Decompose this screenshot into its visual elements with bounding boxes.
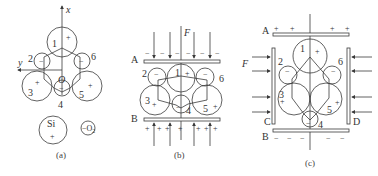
- svg-text:−: −: [340, 134, 345, 143]
- caption-a: (a): [56, 150, 66, 160]
- svg-text:−: −: [145, 49, 150, 58]
- atom-1-sign: +: [185, 69, 190, 78]
- atom-4-label: 4: [318, 119, 323, 130]
- atom-1-sign: +: [66, 33, 71, 42]
- atom-3-label: 3: [28, 87, 33, 98]
- plate-b-label: B: [262, 131, 269, 142]
- panel-a: x y O 1 + 2 − 3 + 4 − 5 + 6 − Si + −O2 (…: [17, 4, 102, 160]
- atom-2-label: 2: [142, 68, 147, 79]
- atom-6-sign: −: [331, 67, 336, 76]
- atom-4-sign: −: [176, 103, 181, 112]
- plate-b: [144, 118, 220, 121]
- plate-b-label: B: [131, 113, 138, 124]
- svg-text:−: −: [160, 49, 165, 58]
- plate-c-label: C: [264, 116, 271, 127]
- atom-3-sign: +: [280, 97, 285, 106]
- atom-3-sign: +: [35, 78, 40, 87]
- plate-a-label: A: [262, 25, 270, 36]
- svg-text:+: +: [290, 24, 295, 33]
- svg-text:+: +: [330, 24, 335, 33]
- x-axis-label: x: [65, 4, 71, 15]
- atom-2-sign: −: [39, 57, 44, 66]
- plate-a-label: A: [131, 54, 139, 65]
- atom-2-sign: −: [154, 70, 159, 79]
- atom-5-label: 5: [203, 103, 208, 114]
- atom-1-label: 1: [52, 38, 57, 49]
- bottom-charges: − − − − −: [274, 134, 345, 143]
- plate-a: [144, 60, 220, 63]
- atom-1-label: 1: [175, 67, 180, 78]
- atom-1-label: 1: [300, 43, 305, 54]
- atom-4-label: 4: [186, 105, 191, 116]
- quartz-piezo-diagram: x y O 1 + 2 − 3 + 4 − 5 + 6 − Si + −O2 (…: [0, 0, 378, 176]
- plate-a: [273, 33, 349, 36]
- svg-text:−: −: [200, 49, 205, 58]
- svg-text:−: −: [326, 134, 331, 143]
- plate-c: [272, 48, 275, 124]
- atom-4-label: 4: [58, 99, 63, 110]
- o-legend-label: −O2: [82, 124, 95, 134]
- plate-b: [273, 129, 349, 132]
- si-legend-sign: +: [50, 132, 55, 141]
- force-arrows-left: [252, 57, 270, 112]
- atom-2-sign: −: [285, 67, 290, 76]
- svg-text:+: +: [345, 24, 350, 33]
- atom-5-label: 5: [327, 104, 332, 115]
- atom-2-label: 2: [278, 56, 283, 67]
- atom-6-sign: −: [203, 70, 208, 79]
- svg-text:+: +: [157, 124, 162, 133]
- atom-5-sign: +: [335, 98, 340, 107]
- svg-text:+: +: [145, 124, 150, 133]
- top-charges: − − − − − −: [145, 49, 220, 58]
- y-axis-label: y: [17, 57, 23, 68]
- svg-text:−: −: [274, 134, 279, 143]
- atom-4-sign: −: [306, 119, 311, 128]
- force-arrows-right: [352, 57, 372, 112]
- atom-3-label: 3: [145, 95, 150, 106]
- svg-text:−: −: [175, 49, 180, 58]
- svg-text:−: −: [215, 49, 220, 58]
- panel-c: + + + + A C D F: [241, 14, 372, 168]
- atom-6-label: 6: [91, 51, 96, 62]
- atom-6-label: 6: [219, 73, 224, 84]
- svg-text:+: +: [178, 124, 183, 133]
- bottom-charges: + + + + + + +: [145, 124, 218, 133]
- top-charges: + + + +: [274, 24, 350, 33]
- atom-4-sign: −: [59, 84, 64, 93]
- atom-5-label: 5: [79, 89, 84, 100]
- svg-text:+: +: [196, 124, 201, 133]
- force-label: F: [183, 27, 191, 38]
- panel-b: F − − − − − − A 1 + 2 − 3: [131, 26, 224, 160]
- atom-6-label: 6: [338, 56, 343, 67]
- atom-6-sign: −: [79, 57, 84, 66]
- si-legend-label: Si: [47, 118, 56, 129]
- svg-text:+: +: [204, 124, 209, 133]
- svg-text:−: −: [300, 134, 305, 143]
- svg-text:+: +: [274, 24, 279, 33]
- plate-d: [347, 48, 350, 124]
- atom-1-sign: +: [315, 47, 320, 56]
- svg-text:−: −: [186, 49, 191, 58]
- atom-5: [72, 71, 102, 101]
- atom-5-sign: +: [213, 102, 218, 111]
- atom-5-sign: +: [88, 81, 93, 90]
- caption-c: (c): [305, 158, 315, 168]
- svg-text:+: +: [165, 124, 170, 133]
- svg-text:+: +: [213, 124, 218, 133]
- atom-2-label: 2: [28, 53, 33, 64]
- force-label: F: [241, 58, 249, 69]
- plate-d-label: D: [353, 116, 360, 127]
- atom-3-sign: +: [152, 100, 157, 109]
- caption-b: (b): [174, 150, 185, 160]
- svg-text:−: −: [287, 134, 292, 143]
